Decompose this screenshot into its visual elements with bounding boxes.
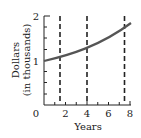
- x-tick-label-6: 6: [105, 108, 111, 119]
- y-axis-sublabel: (in thousands): [21, 24, 32, 97]
- x-tick-label-8: 8: [127, 108, 133, 119]
- x-tick-label-4: 4: [84, 108, 90, 119]
- x-ticks: [55, 101, 130, 105]
- x-tick-label-2: 2: [62, 108, 68, 119]
- growth-chart: 2 1 0 2 4 6 8 Years Dollars (in thousand…: [0, 0, 141, 138]
- x-tick-label-0: 0: [33, 108, 39, 119]
- dashed-reference-lines: [60, 16, 125, 104]
- y-axis-label: Dollars: [10, 42, 21, 78]
- x-axis-label: Years: [73, 121, 102, 132]
- y-tick-label-2: 2: [33, 11, 39, 22]
- y-tick-label-1: 1: [33, 56, 39, 67]
